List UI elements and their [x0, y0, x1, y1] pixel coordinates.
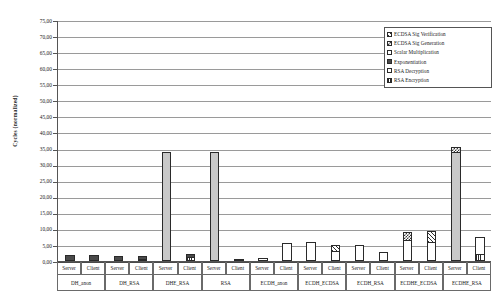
- bar-stack: [89, 255, 99, 261]
- legend-label: ECDSA Sig Generation: [394, 40, 444, 46]
- y-axis-tick-label: 50,00: [0, 98, 52, 104]
- x-axis-role-label: Server: [105, 262, 129, 275]
- y-axis-tick-label: 25,00: [0, 178, 52, 184]
- bar-segment: [379, 252, 389, 261]
- x-axis-role-label: Server: [153, 262, 177, 275]
- x-axis-role-label: Server: [202, 262, 226, 275]
- x-axis-group-label: DHE_RSA: [153, 275, 201, 291]
- gridline: [58, 182, 491, 183]
- x-axis-role-label: Server: [346, 262, 370, 275]
- legend: ECDSA Sig VerificationECDSA Sig Generati…: [384, 27, 492, 88]
- x-axis-group-label: ECDH_ECDSA: [298, 275, 346, 291]
- legend-item: ECDSA Sig Generation: [387, 39, 489, 48]
- x-axis-group-label: DH_anon: [57, 275, 105, 291]
- x-axis-group-label: ECDHE_RSA: [443, 275, 491, 291]
- bar-stack: [210, 152, 220, 261]
- legend-swatch-icon: [387, 32, 392, 37]
- bar-segment: [355, 245, 365, 261]
- legend-swatch-icon: [387, 78, 392, 83]
- gridline: [58, 117, 491, 118]
- x-axis-group-label: ECDH_anon: [250, 275, 298, 291]
- bar-segment: [258, 258, 268, 261]
- x-axis-role-label: Client: [322, 262, 346, 275]
- x-axis-role-label: Server: [395, 262, 419, 275]
- bar-stack: [355, 245, 365, 261]
- y-axis: Cycles (normalized) 0,005,0010,0015,0020…: [0, 0, 57, 305]
- gridline: [58, 21, 491, 22]
- x-axis-role-label: Client: [178, 262, 202, 275]
- bar-stack: [186, 253, 196, 261]
- bar-stack: [403, 231, 413, 261]
- gridline: [58, 214, 491, 215]
- x-axis-role-label: Client: [467, 262, 491, 275]
- bar-segment: [282, 243, 292, 261]
- y-axis-tick-label: 5,00: [0, 243, 52, 249]
- legend-swatch-icon: [387, 50, 392, 55]
- y-axis-tick-label: 70,00: [0, 34, 52, 40]
- chart-container: Cycles (normalized) 0,005,0010,0015,0020…: [0, 0, 499, 305]
- x-axis-group-label: RSA: [202, 275, 250, 291]
- bar-stack: [451, 146, 461, 261]
- bar-stack: [282, 243, 292, 261]
- legend-item: Scalar Multiplication: [387, 48, 489, 57]
- x-axis-group-label: ECDH_RSA: [346, 275, 394, 291]
- x-axis-role-label: Client: [274, 262, 298, 275]
- legend-label: RSA Encryption: [394, 77, 429, 83]
- gridline: [58, 166, 491, 167]
- bar-stack: [258, 258, 268, 261]
- x-axis-group-label: ECDHE_ECDSA: [395, 275, 443, 291]
- y-axis-tick-label: 40,00: [0, 130, 52, 136]
- y-axis-tick-label: 60,00: [0, 66, 52, 72]
- x-axis-role-label: Server: [250, 262, 274, 275]
- bar-stack: [162, 152, 172, 261]
- bar-segment: [451, 152, 461, 261]
- bar-segment: [475, 237, 485, 255]
- x-axis-role-label: Client: [81, 262, 105, 275]
- bar-segment: [114, 256, 124, 261]
- bar-segment: [403, 240, 413, 261]
- bar-segment: [89, 255, 99, 261]
- y-axis-tick-label: 0,00: [0, 259, 52, 265]
- x-axis-role-label: Server: [57, 262, 81, 275]
- x-axis-role-label: Client: [419, 262, 443, 275]
- legend-label: Scalar Multiplication: [394, 49, 439, 55]
- legend-item: ECDSA Sig Verification: [387, 30, 489, 39]
- x-axis-group-label: DH_RSA: [105, 275, 153, 291]
- legend-label: RSA Decryption: [394, 68, 429, 74]
- bar-stack: [306, 242, 316, 261]
- bar-stack: [65, 255, 75, 261]
- bar-stack: [331, 244, 341, 261]
- y-axis-tick-label: 55,00: [0, 82, 52, 88]
- gridline: [58, 198, 491, 199]
- y-axis-tick-label: 10,00: [0, 226, 52, 232]
- bar-stack: [379, 252, 389, 261]
- bar-segment: [186, 257, 196, 261]
- legend-label: ECDSA Sig Verification: [394, 31, 446, 37]
- bar-stack: [138, 255, 148, 261]
- gridline: [58, 101, 491, 102]
- bar-segment: [427, 242, 437, 261]
- legend-label: Exponentiation: [394, 59, 426, 65]
- y-axis-tick-label: 75,00: [0, 18, 52, 24]
- legend-item: RSA Decryption: [387, 66, 489, 75]
- legend-item: Exponentiation: [387, 57, 489, 66]
- x-axis-role-label: Server: [443, 262, 467, 275]
- bar-segment: [210, 152, 220, 261]
- x-axis-role-label: Server: [298, 262, 322, 275]
- x-axis-role-label: Client: [129, 262, 153, 275]
- y-axis-tick-label: 45,00: [0, 114, 52, 120]
- legend-swatch-icon: [387, 41, 392, 46]
- bar-segment: [65, 255, 75, 261]
- x-axis: ServerClientServerClientServerClientServ…: [57, 262, 491, 305]
- y-axis-tick-label: 15,00: [0, 210, 52, 216]
- x-axis-role-label: Client: [226, 262, 250, 275]
- legend-swatch-icon: [387, 68, 392, 73]
- y-axis-tick-label: 30,00: [0, 162, 52, 168]
- x-axis-role-label: Client: [370, 262, 394, 275]
- bar-segment: [162, 152, 172, 261]
- bar-stack: [234, 259, 244, 261]
- bar-stack: [427, 230, 437, 261]
- bar-segment: [234, 259, 244, 261]
- bar-stack: [475, 236, 485, 261]
- bar-segment: [331, 251, 341, 261]
